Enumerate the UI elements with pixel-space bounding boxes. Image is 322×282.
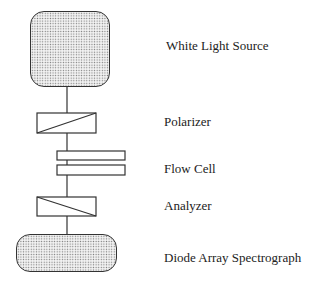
white-light-source-block [30, 11, 110, 87]
diode-array-spectrograph-label: Diode Array Spectrograph [164, 251, 301, 264]
analyzer-symbol [37, 197, 96, 216]
diode-array-spectrograph-block [16, 234, 117, 272]
analyzer-label: Analyzer [164, 199, 212, 212]
polarizer-symbol [37, 113, 96, 133]
white-light-source-label: White Light Source [166, 39, 269, 52]
optical-setup-diagram: White Light Source Polarizer Flow Cell A… [0, 0, 322, 282]
flow-cell-label: Flow Cell [164, 162, 216, 175]
polarizer-label: Polarizer [164, 115, 211, 128]
